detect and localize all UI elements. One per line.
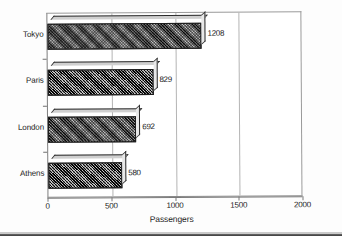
category-axis: TokyoParisLondonAthens [1, 13, 44, 198]
bar-value-label: 829 [159, 76, 172, 84]
bar-group [47, 18, 302, 50]
bar-top-face [51, 154, 128, 158]
bar-side-face [201, 11, 205, 45]
bar [47, 23, 201, 50]
scan-artifact-edge [0, 234, 342, 236]
x-axis-tick-label: 1500 [230, 202, 247, 210]
plot-area: 1208829692580 [46, 11, 302, 198]
bar-side-face [136, 104, 140, 138]
bar-top-face [50, 15, 207, 20]
bar-group [48, 111, 303, 143]
x-axis-tick-label: 500 [105, 202, 118, 210]
category-label: Paris [26, 77, 44, 85]
bar-chart: 1208829692580 TokyoParisLondonAthens Pas… [0, 0, 342, 236]
x-axis-tick-label: 1000 [167, 202, 184, 210]
bar-group [48, 157, 303, 189]
bar-top-face [51, 108, 143, 113]
bar-value-label: 692 [142, 123, 155, 131]
category-label: Athens [20, 170, 44, 178]
y-axis-tick [43, 59, 47, 60]
bar [48, 116, 136, 143]
bar [48, 162, 122, 188]
bar-side-face [153, 58, 157, 92]
bar-side-face [122, 150, 126, 184]
bar [48, 69, 154, 96]
x-axis-tick-label: 0 [45, 203, 49, 211]
x-axis-tick-label: 2000 [294, 201, 311, 209]
bar-value-label: 1208 [207, 30, 224, 38]
bar-top-face [51, 61, 160, 66]
category-label: London [18, 123, 44, 131]
bar-value-label: 580 [128, 169, 141, 177]
bar-group [48, 64, 303, 96]
chart-figure: 1208829692580 TokyoParisLondonAthens Pas… [0, 0, 342, 236]
y-axis-tick [43, 105, 47, 106]
category-label: Tokyo [23, 31, 43, 39]
x-axis-title: Passengers [1, 214, 342, 225]
y-axis-tick [43, 152, 47, 153]
